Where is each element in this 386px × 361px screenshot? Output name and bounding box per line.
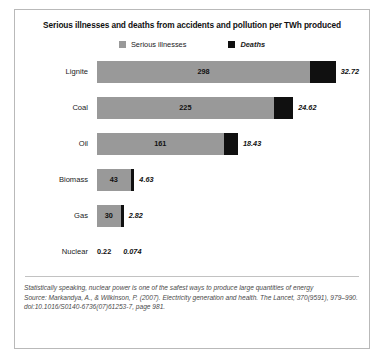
bar-value-serious-illnesses: 298 [197,67,209,76]
bar-deaths [224,133,238,155]
bar-value-serious-illnesses: 225 [179,103,191,112]
bar-serious-illnesses: 298 [97,61,310,83]
bar-value-deaths: 0.074 [123,247,141,256]
bar-deaths [131,169,135,191]
bar-value-serious-illnesses: 0.22 [97,247,111,256]
bar-value-deaths: 2.82 [129,211,143,220]
category-label: Oil [25,139,97,148]
bar-group: 0.220.074 [97,241,359,263]
chart-title: Serious illnesses and deaths from accide… [25,21,359,31]
bar-deaths [274,97,293,119]
chart-footnote: Statistically speaking, nuclear power is… [15,277,369,312]
category-label: Gas [25,211,97,220]
chart-row: Lignite29832.72 [25,61,359,83]
bar-value-serious-illnesses: 161 [154,139,166,148]
legend-swatch-icon-deaths [228,41,235,48]
category-label: Lignite [25,67,97,76]
legend-item-serious-illnesses: Serious illnesses [119,40,186,49]
chart-plot: Lignite29832.72Coal22524.62Oil16118.43Bi… [25,61,359,263]
bar-value-deaths: 4.63 [139,175,153,184]
category-label: Nuclear [25,247,97,256]
legend-item-deaths: Deaths [228,40,265,49]
chart-row: Nuclear0.220.074 [25,241,359,263]
legend-label-deaths: Deaths [240,40,265,49]
chart-area: Serious illnesses and deaths from accide… [15,10,369,277]
legend-swatch-icon-serious-illnesses [119,41,126,48]
chart-figure: Serious illnesses and deaths from accide… [14,9,370,349]
footnote-statement: Statistically speaking, nuclear power is… [24,283,360,293]
category-label: Biomass [25,175,97,184]
bar-serious-illnesses: 43 [97,169,131,191]
bar-serious-illnesses: 225 [97,97,274,119]
bar-value-serious-illnesses: 30 [105,211,113,220]
bar-serious-illnesses: 30 [97,205,121,227]
chart-row: Biomass434.63 [25,169,359,191]
bar-value-serious-illnesses: 43 [110,175,118,184]
chart-legend: Serious illnesses Deaths [25,40,359,49]
bar-group: 29832.72 [97,61,359,83]
bar-serious-illnesses: 161 [97,133,224,155]
chart-row: Gas302.82 [25,205,359,227]
chart-row: Coal22524.62 [25,97,359,119]
footnote-source: Source: Markandya, A., & Wilkinson, P. (… [24,293,360,312]
bar-value-deaths: 32.72 [341,67,359,76]
bar-group: 16118.43 [97,133,359,155]
category-label: Coal [25,103,97,112]
bar-group: 434.63 [97,169,359,191]
bar-deaths [310,61,336,83]
bar-group: 302.82 [97,205,359,227]
bar-group: 22524.62 [97,97,359,119]
bar-value-deaths: 24.62 [298,103,316,112]
bar-deaths [121,205,124,227]
legend-label-serious-illnesses: Serious illnesses [131,40,186,49]
chart-row: Oil16118.43 [25,133,359,155]
bar-value-deaths: 18.43 [243,139,261,148]
